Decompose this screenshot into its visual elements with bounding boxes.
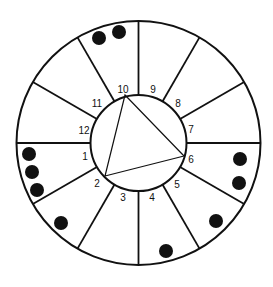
spoke-line	[78, 37, 115, 101]
dot	[112, 25, 126, 39]
spoke-line	[180, 82, 244, 119]
spoke-line	[163, 37, 200, 101]
dot	[233, 152, 247, 166]
sector-label: 5	[174, 179, 180, 190]
spoke-line	[163, 185, 200, 249]
sector-label: 1	[82, 151, 88, 162]
spoke-line	[33, 82, 97, 119]
dot	[25, 165, 39, 179]
dot	[30, 183, 44, 197]
sector-label: 10	[117, 84, 129, 95]
sector-label: 12	[78, 125, 90, 136]
spoke-line	[33, 167, 97, 204]
sector-label: 8	[175, 98, 181, 109]
dot	[54, 216, 68, 230]
sector-label: 7	[188, 124, 194, 135]
sector-label: 4	[149, 192, 155, 203]
sector-label: 11	[92, 98, 103, 109]
dot	[159, 244, 173, 258]
dot	[22, 147, 36, 161]
spoke-line	[78, 185, 115, 249]
sector-label: 9	[150, 84, 156, 95]
sector-label: 6	[188, 154, 194, 165]
dot	[92, 31, 106, 45]
circular-diagram: 123456789101112	[0, 0, 273, 287]
sector-label: 3	[120, 192, 126, 203]
sector-label: 2	[94, 178, 100, 189]
dot	[209, 214, 223, 228]
dot	[232, 176, 246, 190]
